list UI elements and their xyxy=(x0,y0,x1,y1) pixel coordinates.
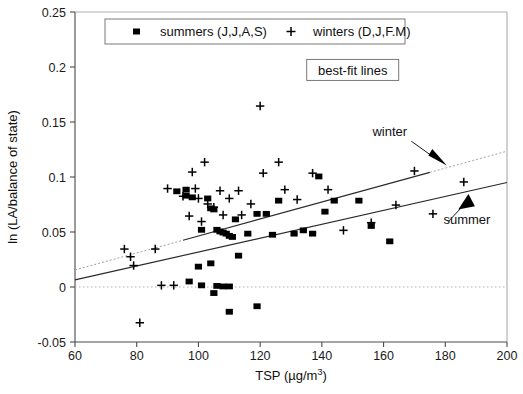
x-tick-label: 60 xyxy=(68,349,82,363)
best-fit-lines-label: best-fit lines xyxy=(318,63,388,78)
data-point-square xyxy=(226,284,233,290)
data-point-square xyxy=(207,260,214,266)
winter-annotation-label: winter xyxy=(371,124,407,139)
data-point-square xyxy=(331,198,338,204)
summer-arrowhead xyxy=(458,194,475,209)
data-point-square xyxy=(189,194,196,200)
fit-line-winter-dotted xyxy=(75,240,183,270)
x-tick-label: 80 xyxy=(130,349,144,363)
y-tick-label: 0.15 xyxy=(42,116,66,130)
series-winters xyxy=(120,102,468,327)
data-point-square xyxy=(235,253,242,259)
data-point-square xyxy=(355,198,362,204)
winter-arrowhead xyxy=(428,149,447,166)
x-tick-label: 180 xyxy=(435,349,456,363)
y-tick-label: 0.25 xyxy=(42,6,66,20)
data-point-square xyxy=(300,227,307,233)
x-tick-label: 120 xyxy=(250,349,271,363)
data-point-square xyxy=(253,303,260,309)
y-tick-label: 0 xyxy=(59,281,66,295)
y-tick-label: 0.2 xyxy=(49,61,66,75)
data-point-square xyxy=(195,264,202,270)
x-axis-label: TSP (µg/m3) xyxy=(255,367,327,383)
data-point-square xyxy=(226,309,233,315)
data-point-square xyxy=(213,283,220,289)
data-point-square xyxy=(263,211,270,217)
data-point-square xyxy=(253,211,260,217)
scatter-plot: -0.0500.050.10.150.20.256080100120140160… xyxy=(0,0,523,394)
data-point-square xyxy=(386,238,393,244)
series-summers xyxy=(173,174,393,315)
legend-label-summers: summers (J,J,A,S) xyxy=(160,24,267,39)
data-point-square xyxy=(186,279,193,285)
data-point-square xyxy=(315,174,322,180)
x-tick-label: 200 xyxy=(497,349,518,363)
y-tick-label: 0.1 xyxy=(49,171,66,185)
x-tick-label: 140 xyxy=(311,349,332,363)
legend-marker-square xyxy=(133,29,140,35)
data-point-square xyxy=(198,282,205,288)
data-point-square xyxy=(309,231,316,237)
data-point-square xyxy=(229,234,236,240)
data-point-square xyxy=(198,227,205,233)
data-point-square xyxy=(232,216,239,222)
data-point-square xyxy=(244,231,251,237)
data-point-square xyxy=(269,232,276,238)
y-tick-label: 0.05 xyxy=(42,226,66,240)
data-point-square xyxy=(290,231,297,237)
y-tick-label: -0.05 xyxy=(38,336,67,350)
chart-figure: -0.0500.050.10.150.20.256080100120140160… xyxy=(0,0,523,394)
data-point-square xyxy=(220,284,227,290)
x-tick-label: 100 xyxy=(188,349,209,363)
data-point-square xyxy=(173,188,180,194)
legend-label-winters: winters (D,J,F.M) xyxy=(312,24,411,39)
x-tick-label: 160 xyxy=(373,349,394,363)
y-axis-label: ln (LA/balance of state) xyxy=(5,110,20,244)
data-point-square xyxy=(210,290,217,296)
data-point-square xyxy=(321,209,328,215)
data-point-square xyxy=(275,198,282,204)
data-point-square xyxy=(182,187,189,193)
